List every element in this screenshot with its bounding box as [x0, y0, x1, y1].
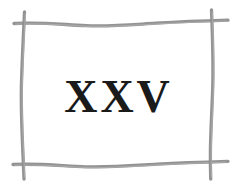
illustration-canvas: XXV: [0, 0, 241, 189]
numeral-container: XXV: [0, 0, 241, 189]
roman-numeral-text: XXV: [64, 74, 173, 120]
